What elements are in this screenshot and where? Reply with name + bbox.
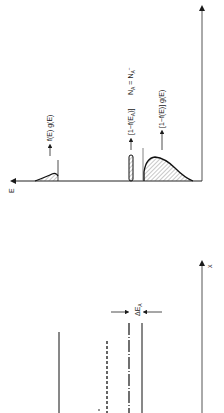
delta-ea-label: ΔEA <box>134 303 143 316</box>
energy-axis-label: E <box>8 188 15 193</box>
position-axis-label: x <box>206 264 213 268</box>
density-panel: E f(E) g(E) [1−f(EA)] NA = NA− [1−f(E)] … <box>8 8 202 193</box>
band-diagram: E f(E) g(E) [1−f(EA)] NA = NA− [1−f(E)] … <box>0 0 224 413</box>
f-g-label: f(E) g(E) <box>46 115 54 141</box>
acceptor-level-bar <box>129 155 133 181</box>
acceptor-occupancy-label: [1−f(EA)] <box>127 108 136 135</box>
ionized-acceptor-label: NA = NA− <box>126 67 136 95</box>
band-edge-panel: x ΔEA <box>59 263 213 413</box>
one-minus-f-g-label: [1−f(E)] g(E) <box>158 90 166 128</box>
dot-mark <box>98 409 100 411</box>
